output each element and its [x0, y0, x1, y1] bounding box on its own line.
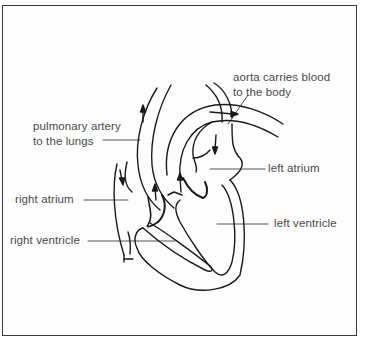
- label-pulmonary-line2: to the lungs: [33, 134, 121, 149]
- label-aorta-line2: to the body: [233, 85, 330, 100]
- label-aorta-line1: aorta carries blood: [233, 70, 330, 85]
- label-pulmonary-artery: pulmonary artery to the lungs: [33, 119, 121, 149]
- label-aorta: aorta carries blood to the body: [233, 70, 330, 100]
- label-right-ventricle: right ventricle: [10, 233, 80, 248]
- label-left-ventricle: left ventricle: [274, 216, 337, 231]
- ventricle-walls: [135, 180, 244, 290]
- label-left-atrium: left atrium: [268, 161, 320, 176]
- leader-lines: [84, 95, 268, 241]
- left-atrium: [193, 122, 242, 180]
- label-right-atrium: right atrium: [15, 192, 74, 207]
- label-pulmonary-line1: pulmonary artery: [33, 119, 121, 134]
- right-atrium-wall: [114, 162, 133, 262]
